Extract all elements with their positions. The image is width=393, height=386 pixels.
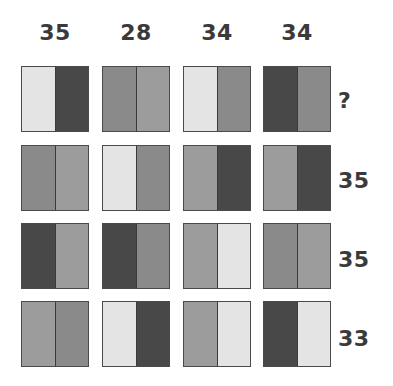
tile-right-half-medium: [298, 67, 331, 131]
tile-left-half-light: [184, 67, 218, 131]
tile-right-half-dark: [218, 146, 251, 210]
row-label-2: 35: [338, 168, 378, 193]
tile-r3-c1: [21, 223, 89, 289]
tile-right-half-medium: [56, 302, 89, 366]
tile-r2-c1: [21, 145, 89, 211]
tile-right-half-medium-light: [56, 146, 89, 210]
tile-r3-c3: [183, 223, 251, 289]
tile-left-half-light: [22, 67, 56, 131]
column-label-4: 34: [263, 20, 331, 45]
tile-left-half-medium: [103, 67, 137, 131]
tile-right-half-medium-light: [298, 224, 331, 288]
tile-r2-c3: [183, 145, 251, 211]
tile-right-half-light: [218, 224, 251, 288]
tile-left-half-dark: [103, 224, 137, 288]
tile-left-half-medium: [264, 224, 298, 288]
column-label-3: 34: [183, 20, 251, 45]
row-label-3: 35: [338, 247, 378, 272]
tile-left-half-medium-light: [184, 302, 218, 366]
tile-left-half-dark: [22, 224, 56, 288]
tile-right-half-medium: [137, 224, 170, 288]
tile-left-half-dark: [264, 302, 298, 366]
tile-left-half-light: [103, 302, 137, 366]
tile-r4-c1: [21, 301, 89, 367]
tile-r1-c2: [102, 66, 170, 132]
tile-right-half-dark: [137, 302, 170, 366]
column-label-2: 28: [102, 20, 170, 45]
tile-r4-c2: [102, 301, 170, 367]
tile-right-half-dark: [298, 146, 331, 210]
row-label-1-question-mark: ?: [338, 88, 378, 113]
tile-r1-c4: [263, 66, 331, 132]
tile-left-half-medium-light: [22, 302, 56, 366]
tile-right-half-dark: [56, 67, 89, 131]
tile-left-half-medium: [22, 146, 56, 210]
tile-right-half-medium-light: [56, 224, 89, 288]
tile-r4-c3: [183, 301, 251, 367]
tile-right-half-medium: [218, 67, 251, 131]
tile-r1-c3: [183, 66, 251, 132]
tile-left-half-medium-light: [184, 224, 218, 288]
tile-left-half-light: [103, 146, 137, 210]
tile-left-half-medium-light: [264, 146, 298, 210]
tile-r2-c2: [102, 145, 170, 211]
tile-r4-c4: [263, 301, 331, 367]
tile-right-half-medium: [137, 146, 170, 210]
row-label-4: 33: [338, 326, 378, 351]
tile-left-half-medium-light: [184, 146, 218, 210]
column-label-1: 35: [21, 20, 89, 45]
tile-r1-c1: [21, 66, 89, 132]
tile-r3-c2: [102, 223, 170, 289]
tile-right-half-medium-light: [137, 67, 170, 131]
tile-right-half-light: [298, 302, 331, 366]
tile-right-half-light: [218, 302, 251, 366]
tile-r3-c4: [263, 223, 331, 289]
tile-left-half-dark: [264, 67, 298, 131]
tile-r2-c4: [263, 145, 331, 211]
